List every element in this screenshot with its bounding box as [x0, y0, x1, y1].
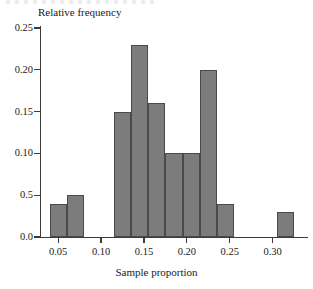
x-axis-tick	[272, 237, 273, 243]
plot-area	[41, 28, 307, 237]
histogram-bar	[131, 45, 148, 237]
histogram-figure: Relative frequency 0.00.50.100.150.200.2…	[0, 0, 313, 289]
x-axis-tick-label: 0.15	[124, 246, 164, 258]
y-axis-tick	[34, 111, 40, 112]
histogram-bar	[165, 153, 182, 237]
y-axis-tick	[34, 153, 40, 154]
x-axis-tick	[186, 237, 187, 243]
histogram-bar	[148, 103, 165, 237]
y-axis-tick	[34, 27, 40, 28]
y-axis-tick-label: 0.15	[1, 106, 33, 117]
y-axis-tick	[34, 69, 40, 70]
histogram-bar	[183, 153, 200, 237]
x-axis-tick-label: 0.25	[210, 246, 250, 258]
histogram-bar	[217, 204, 234, 237]
y-axis-tick-label: 0.25	[1, 22, 33, 33]
histogram-bar	[200, 70, 217, 237]
y-axis-tick	[34, 236, 40, 237]
x-axis-tick-label: 0.05	[38, 246, 78, 258]
x-axis-tick-label: 0.30	[253, 246, 293, 258]
y-axis-tick-label: 0.10	[1, 147, 33, 158]
x-axis-tick	[58, 237, 59, 243]
x-axis-tick-label: 0.20	[167, 246, 207, 258]
x-axis-tick-label: 0.10	[81, 246, 121, 258]
x-axis-tick	[229, 237, 230, 243]
y-axis-tick-label: 0.0	[1, 231, 33, 242]
x-axis-tick	[100, 237, 101, 243]
y-axis-tick-label: 0.20	[1, 64, 33, 75]
histogram-bar	[50, 204, 67, 237]
histogram-bar	[67, 195, 84, 237]
x-axis-title: Sample proportion	[0, 266, 313, 279]
histogram-bar	[277, 212, 294, 237]
x-axis-tick	[143, 237, 144, 243]
histogram-bar	[114, 112, 131, 237]
y-axis-tick-label: 0.5	[1, 189, 33, 200]
y-axis-labels: 0.00.50.100.150.200.25	[0, 0, 33, 289]
y-axis-tick	[34, 195, 40, 196]
y-axis-title: Relative frequency	[38, 6, 121, 19]
